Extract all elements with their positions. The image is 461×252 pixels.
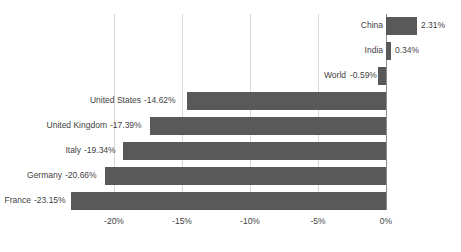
bar-row: World -0.59% bbox=[0, 64, 461, 88]
bar-row: India 0.34% bbox=[0, 39, 461, 63]
bar-value-label: 2.31% bbox=[421, 19, 445, 31]
bar-value-label: -17.39% bbox=[110, 119, 142, 131]
xtick-label: 0% bbox=[366, 216, 406, 226]
bar-row: United Kingdom -17.39% bbox=[0, 114, 461, 138]
bar-segment bbox=[386, 42, 391, 60]
bar-row: Germany -20.66% bbox=[0, 164, 461, 188]
xtick-label: -10% bbox=[230, 216, 270, 226]
bar-category-label: India bbox=[365, 44, 383, 56]
bar-row: Italy -19.34% bbox=[0, 139, 461, 163]
bar-segment bbox=[187, 92, 386, 110]
bar-segment bbox=[123, 142, 386, 160]
bar-row: France -23.15% bbox=[0, 189, 461, 213]
xtick-label: -15% bbox=[162, 216, 202, 226]
xtick-label: -5% bbox=[298, 216, 338, 226]
bar-category-label: World bbox=[324, 69, 346, 81]
bar-segment bbox=[150, 117, 386, 135]
bar-category-label: China bbox=[361, 19, 383, 31]
bar-category-label: Italy bbox=[65, 144, 81, 156]
bar-segment bbox=[71, 192, 386, 210]
bar-chart: China 2.31% India 0.34% World -0.59% Uni… bbox=[0, 0, 461, 252]
bar-value-label: -20.66% bbox=[65, 169, 97, 181]
bar-category-label: Germany bbox=[27, 169, 62, 181]
bar-segment bbox=[105, 167, 386, 185]
bar-category-label: United States bbox=[90, 94, 141, 106]
bar-value-label: -23.15% bbox=[34, 194, 66, 206]
bar-segment bbox=[378, 67, 386, 85]
bar-category-label: France bbox=[5, 194, 31, 206]
xtick-label: -20% bbox=[94, 216, 134, 226]
bar-category-label: United Kingdom bbox=[47, 119, 107, 131]
bar-value-label: -19.34% bbox=[84, 144, 116, 156]
bar-value-label: -0.59% bbox=[350, 69, 377, 81]
bar-row: China 2.31% bbox=[0, 14, 461, 38]
bar-value-label: -14.62% bbox=[144, 94, 176, 106]
bar-value-label: 0.34% bbox=[395, 44, 419, 56]
bar-row: United States -14.62% bbox=[0, 89, 461, 113]
bar-segment bbox=[386, 17, 417, 35]
